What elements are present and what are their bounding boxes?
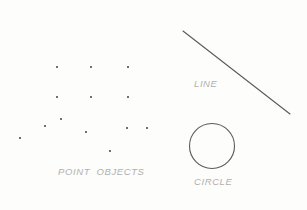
point-marker <box>127 66 129 68</box>
point-marker <box>126 127 128 129</box>
point-marker <box>109 150 111 152</box>
point-marker <box>127 96 129 98</box>
point-marker <box>60 118 62 120</box>
point-marker <box>44 125 46 127</box>
point-marker <box>146 127 148 129</box>
point-marker <box>90 66 92 68</box>
point-objects-label: POINT OBJECTS <box>58 167 145 177</box>
point-marker <box>90 96 92 98</box>
point-marker <box>85 131 87 133</box>
line-label: LINE <box>194 79 218 89</box>
diagram-canvas: POINT OBJECTS LINE CIRCLE <box>0 0 307 210</box>
vector-graphics-layer <box>0 0 307 210</box>
circle-label: CIRCLE <box>194 177 232 187</box>
circle-shape <box>190 124 235 169</box>
point-marker <box>56 66 58 68</box>
line-shape <box>183 31 290 114</box>
point-marker <box>56 96 58 98</box>
point-marker <box>19 137 21 139</box>
